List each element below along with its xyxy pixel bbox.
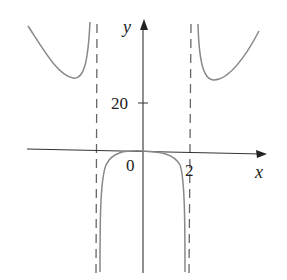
x-tick-label-2: 2 xyxy=(185,161,194,180)
origin-label: 0 xyxy=(126,156,135,175)
y-axis-arrow-icon xyxy=(140,19,148,30)
x-axis-arrow-icon xyxy=(256,150,267,158)
graph: y x 0 2 20 xyxy=(0,0,287,280)
asymptote-right xyxy=(189,24,191,274)
y-tick-label-20: 20 xyxy=(111,94,128,113)
curve-right-branch xyxy=(198,24,259,80)
x-axis-label: x xyxy=(254,162,263,182)
asymptote-left xyxy=(96,24,97,274)
y-axis-label: y xyxy=(121,17,131,37)
curve-left-branch xyxy=(28,22,90,78)
